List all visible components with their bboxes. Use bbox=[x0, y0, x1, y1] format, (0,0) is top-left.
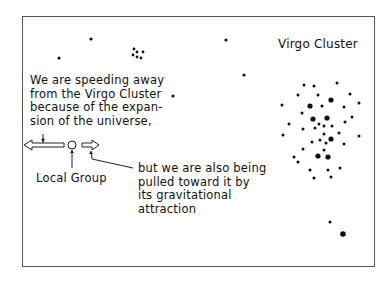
speeding-away-caption: We are speeding away from the Virgo Clus… bbox=[30, 74, 164, 128]
local-group-circle-icon bbox=[68, 141, 76, 149]
left-arrow-icon bbox=[24, 140, 64, 150]
pulled-toward-caption: but we are also being pulled toward it b… bbox=[138, 162, 266, 216]
right-arrow-icon bbox=[82, 140, 99, 150]
local-group-label: Local Group bbox=[36, 172, 107, 186]
virgo-cluster-galaxies bbox=[281, 82, 361, 237]
virgo-cluster-label: Virgo Cluster bbox=[278, 38, 358, 52]
local-group-symbols bbox=[24, 134, 133, 168]
small-galaxy-group bbox=[132, 48, 145, 60]
